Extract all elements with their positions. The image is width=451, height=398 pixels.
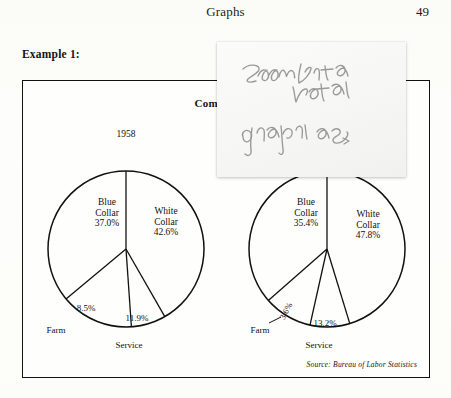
pie-right-outside-label-service: Service [291,340,347,350]
pie-right-slice-label-blue-collar: Blue Collar 35.4% [277,197,335,229]
pie-right-slice-label-service-value: 13.2% [304,318,346,328]
sticky-note-overlay [217,42,406,177]
pie-left-slice-label-white-collar: White Collar 42.6% [137,206,195,238]
handwriting-scribble [217,42,406,177]
pie-left-slice-label-service-value: 11.9% [116,313,158,323]
figure-source-note: Source: Bureau of Labor Statistics [307,360,417,369]
running-head: Graphs 49 [0,4,451,24]
page-header-title: Graphs [0,4,451,20]
pie-right-slice-label-white-collar: White Collar 47.8% [339,209,397,241]
pie-right-outside-label-farm: Farm [237,325,283,335]
example-label: Example 1: [22,48,80,60]
pie-left-outside-label-farm: Farm [33,325,79,335]
page-number: 49 [416,4,429,20]
pie-left-slice-label-farm-value: 8.5% [67,303,105,313]
pie-left-slice-label-blue-collar: Blue Collar 37.0% [79,197,135,229]
pie-left-outside-label-service: Service [101,340,157,350]
pie-left-year-label: 1958 [101,129,151,139]
scanned-page: Graphs 49 Example 1: Composition 1958 [0,0,451,398]
